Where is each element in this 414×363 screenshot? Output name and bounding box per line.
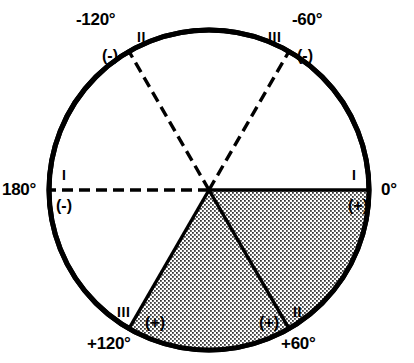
sector-diagram-figure: -120° -60° 180° 0° +120° +60° II III I I… bbox=[0, 0, 414, 363]
roman-label-minus-120: II bbox=[137, 30, 146, 44]
sign-label-0: (+) bbox=[348, 198, 368, 214]
angle-label-180: 180° bbox=[2, 181, 36, 198]
angle-label-0: 0° bbox=[381, 181, 397, 198]
sign-label-plus-60: (+) bbox=[259, 315, 279, 331]
angle-label-plus-120: +120° bbox=[87, 335, 131, 352]
sign-label-minus-60: (-) bbox=[297, 48, 313, 64]
sign-label-180: (-) bbox=[56, 198, 72, 214]
angle-label-minus-60: -60° bbox=[292, 11, 322, 28]
roman-label-plus-120: III bbox=[117, 305, 130, 319]
sign-label-minus-120: (-) bbox=[102, 48, 118, 64]
sign-label-plus-120: (+) bbox=[145, 315, 165, 331]
roman-label-180: I bbox=[62, 168, 67, 182]
roman-label-minus-60: III bbox=[268, 30, 281, 44]
roman-label-0: I bbox=[352, 168, 357, 182]
angle-label-plus-60: +60° bbox=[281, 335, 315, 352]
angle-label-minus-120: -120° bbox=[76, 11, 115, 28]
roman-label-plus-60: II bbox=[293, 305, 302, 319]
